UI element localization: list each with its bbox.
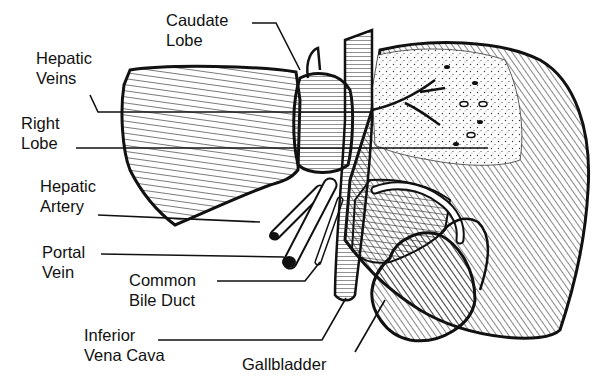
label-text: Hepatic <box>36 48 92 68</box>
label-text: Gallbladder <box>242 354 326 374</box>
label-text: Artery <box>40 196 96 216</box>
label-text: Veins <box>36 68 92 88</box>
leader-gallbladder <box>355 300 385 352</box>
label-text: Lobe <box>21 133 60 153</box>
label-text: Right <box>21 113 60 133</box>
label-text: Portal <box>42 242 85 262</box>
label-text: Caudate <box>166 10 228 30</box>
label-text: Hepatic <box>40 176 96 196</box>
label-inferior-vena-cava: Inferior Vena Cava <box>84 325 165 365</box>
label-text: Vein <box>42 262 85 282</box>
label-right-lobe: Right Lobe <box>21 113 60 153</box>
right-lobe-shape <box>122 66 300 225</box>
label-hepatic-artery: Hepatic Artery <box>40 176 96 216</box>
leader-common-bile-duct <box>217 262 320 281</box>
label-text: Common <box>129 270 196 290</box>
label-text: Vena Cava <box>84 345 165 365</box>
label-text: Lobe <box>166 30 228 50</box>
label-text: Bile Duct <box>129 290 196 310</box>
label-caudate-lobe: Caudate Lobe <box>166 10 228 50</box>
label-gallbladder: Gallbladder <box>242 354 326 374</box>
label-common-bile-duct: Common Bile Duct <box>129 270 196 310</box>
label-portal-vein: Portal Vein <box>42 242 85 282</box>
leader-caudate-lobe <box>252 23 300 70</box>
label-hepatic-veins: Hepatic Veins <box>36 48 92 88</box>
label-text: Inferior <box>84 325 165 345</box>
leader-portal-vein <box>101 254 284 257</box>
